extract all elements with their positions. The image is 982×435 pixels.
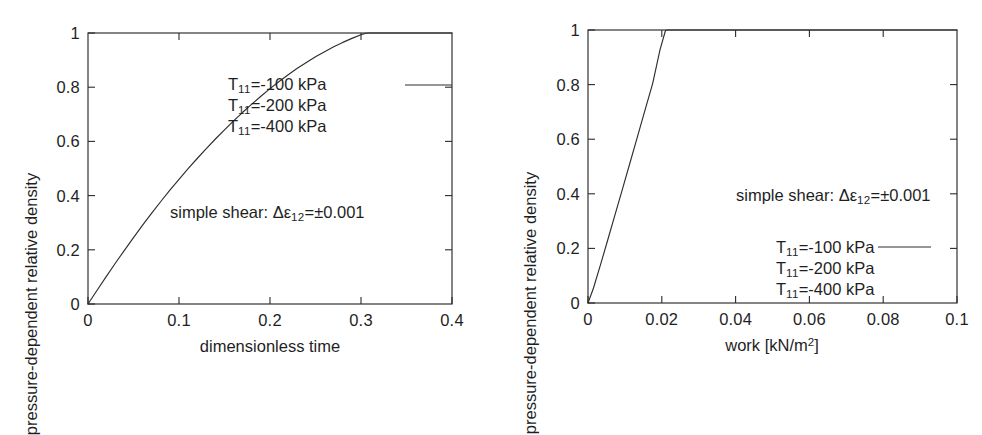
legend-text-right-2: =-400 kPa	[799, 280, 875, 298]
y-tick-label-right-2: 0.4	[556, 184, 580, 203]
annotation-prefix-right: simple shear: Δε	[736, 186, 857, 204]
x-tick-label-left-1: 0.1	[167, 311, 191, 330]
x-tick-marks-right	[588, 30, 957, 303]
annotation-suffix-right: =±0.001	[871, 186, 931, 204]
data-curve-left	[88, 33, 452, 304]
y-tick-label-right-5: 1	[571, 21, 580, 40]
legend-entry-left-1: T11=-200 kPa	[228, 96, 326, 117]
y-tick-label-right-3: 0.6	[556, 130, 580, 149]
annotation-right: simple shear: Δε12=±0.001	[736, 186, 931, 206]
axis-frame-left	[88, 33, 452, 304]
legend-entry-right-2: T11=-400 kPa	[776, 280, 874, 301]
legend-entry-right-0: T11=-100 kPa	[776, 238, 874, 259]
x-tick-label-left-4: 0.4	[440, 311, 464, 330]
y-tick-label-left-2: 0.4	[56, 186, 80, 205]
legend-symbol-left-2: T	[228, 117, 238, 135]
legend-subscript-right-1: 11	[786, 267, 799, 279]
legend-text-right-0: =-100 kPa	[799, 238, 875, 256]
legend-text-left-1: =-200 kPa	[251, 96, 327, 114]
annotation-subscript-left: 12	[291, 211, 304, 223]
annotation-left: simple shear: Δε12=±0.001	[170, 203, 365, 223]
y-tick-label-left-5: 1	[71, 24, 80, 43]
x-axis-title-right-prefix: work [kN/m	[725, 336, 808, 354]
annotation-suffix-left: =±0.001	[305, 203, 365, 221]
legend-symbol-right-2: T	[776, 280, 786, 298]
annotation-subscript-right: 12	[857, 194, 870, 206]
x-tick-label-left-2: 0.2	[258, 311, 282, 330]
chart-panel-right: 0 0.2 0.4 0.6 0.8 1 0 0.02 0.04 0.06 0.0…	[491, 0, 982, 373]
y-tick-label-left-1: 0.2	[56, 240, 80, 259]
legend-symbol-right-0: T	[776, 238, 786, 256]
legend-subscript-right-0: 11	[786, 246, 799, 258]
legend-subscript-left-1: 11	[238, 104, 251, 116]
y-tick-label-left-3: 0.6	[56, 132, 80, 151]
legend-entry-left-2: T11=-400 kPa	[228, 117, 326, 138]
y-tick-label-right-0: 0	[571, 294, 580, 313]
axis-frame-right	[588, 30, 957, 303]
legend-subscript-right-2: 11	[786, 288, 799, 300]
legend-text-left-2: =-400 kPa	[251, 117, 327, 135]
y-axis-title-left: pressure-dependent relative density	[22, 173, 41, 435]
x-tick-label-right-4: 0.08	[867, 310, 900, 329]
legend-symbol-right-1: T	[776, 259, 786, 277]
legend-entry-left-0: T11=-100 kPa	[228, 75, 326, 96]
x-axis-title-right: work [kN/m2]	[725, 336, 819, 355]
legend-right: T11=-100 kPa T11=-200 kPa T11=-400 kPa	[776, 238, 874, 301]
y-tick-marks-left	[88, 33, 452, 304]
x-tick-label-right-5: 0.1	[945, 310, 969, 329]
y-tick-label-right-4: 0.8	[556, 75, 580, 94]
legend-symbol-left-0: T	[228, 75, 238, 93]
x-tick-marks-left	[88, 33, 452, 304]
x-tick-label-right-0: 0	[583, 310, 592, 329]
legend-text-right-1: =-200 kPa	[799, 259, 875, 277]
y-axis-title-right: pressure-dependent relative density	[521, 172, 540, 434]
y-tick-label-right-1: 0.2	[556, 239, 580, 258]
x-tick-label-right-3: 0.06	[793, 310, 826, 329]
legend-text-left-0: =-100 kPa	[251, 75, 327, 93]
x-tick-label-left-0: 0	[83, 311, 92, 330]
x-tick-label-right-1: 0.02	[645, 310, 678, 329]
annotation-prefix-left: simple shear: Δε	[170, 203, 291, 221]
x-tick-label-right-2: 0.04	[719, 310, 752, 329]
y-tick-marks-right	[588, 30, 957, 303]
chart-panel-left: 0 0.2 0.4 0.6 0.8 1 0 0.1 0.2 0.3 0.4 di…	[0, 0, 491, 373]
legend-left: T11=-100 kPa T11=-200 kPa T11=-400 kPa	[228, 75, 326, 138]
legend-subscript-left-2: 11	[238, 125, 251, 137]
y-tick-label-left-0: 0	[71, 295, 80, 314]
x-axis-title-left: dimensionless time	[200, 337, 340, 356]
legend-symbol-left-1: T	[228, 96, 238, 114]
legend-entry-right-1: T11=-200 kPa	[776, 259, 874, 280]
legend-subscript-left-0: 11	[238, 83, 251, 95]
data-curve-right	[588, 30, 957, 303]
y-tick-label-left-4: 0.8	[56, 78, 80, 97]
x-tick-label-left-3: 0.3	[349, 311, 373, 330]
x-axis-title-right-suffix: ]	[814, 336, 819, 354]
